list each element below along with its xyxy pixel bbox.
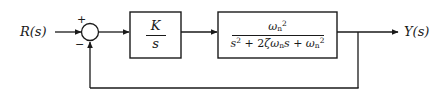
controller-denominator: s [149,37,162,52]
plant-den-sup2: 2 [320,36,325,45]
plant-den-omega2: ω [306,36,315,49]
plant-transfer-function: ωn2 s2 + 2ζωns + ωn2 [218,12,337,58]
summing-junction-minus-sign: − [75,38,84,51]
plant-den-s2: s [284,36,290,49]
output-signal-label: Y(s) [404,24,429,39]
plant-num-superscript: 2 [282,19,287,28]
controller-transfer-function: K s [130,12,181,58]
block-diagram: R(s) Y(s) + − K s ωn2 s2 + 2ζωns + ωn2 [0,0,442,106]
plant-den-sup1: 2 [236,36,241,45]
plant-den-omega1: ω [270,36,279,49]
plant-numerator: ωn2 [265,20,290,34]
controller-numerator: K [148,19,164,34]
plant-denominator: s2 + 2ζωns + ωn2 [228,37,328,51]
plant-num-omega: ω [268,19,277,32]
summing-junction-plus-sign: + [77,13,86,26]
plant-den-plus1: + [245,36,254,49]
input-signal-label: R(s) [20,24,47,39]
plant-den-plus2: + [293,36,302,49]
